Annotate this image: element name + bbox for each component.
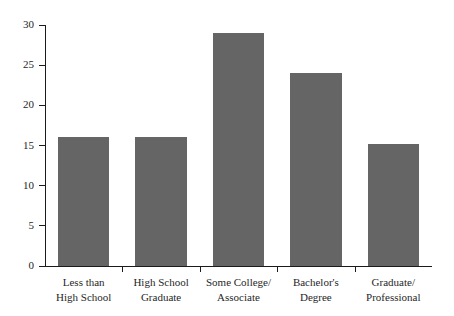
y-tick-label: 0 xyxy=(0,260,34,271)
y-tick-label: 10 xyxy=(0,180,34,191)
y-tick-mark xyxy=(39,65,45,66)
bar xyxy=(213,33,264,266)
y-tick-label: 15 xyxy=(0,140,34,151)
x-tick-mark xyxy=(355,266,356,272)
y-tick-label: 25 xyxy=(0,59,34,70)
bar-chart: 051015202530 Less thanHigh SchoolHigh Sc… xyxy=(0,0,454,316)
x-label-line: Some College/ xyxy=(206,276,271,288)
x-axis-category-label: Graduate/Professional xyxy=(355,275,432,304)
x-label-line: Graduate xyxy=(122,290,199,305)
y-tick-label: 30 xyxy=(0,19,34,30)
x-label-line: High School xyxy=(45,290,122,305)
x-axis-line xyxy=(45,266,432,267)
x-axis-category-label: Some College/Associate xyxy=(200,275,277,304)
y-tick-mark xyxy=(39,145,45,146)
y-tick-mark xyxy=(39,266,45,267)
bar xyxy=(135,137,186,266)
y-tick-mark xyxy=(39,105,45,106)
x-label-line: Professional xyxy=(355,290,432,305)
x-axis-category-label: Less thanHigh School xyxy=(45,275,122,304)
x-tick-mark xyxy=(277,266,278,272)
x-label-line: Associate xyxy=(200,290,277,305)
x-tick-mark xyxy=(200,266,201,272)
y-tick-mark xyxy=(39,185,45,186)
bar xyxy=(58,137,109,266)
y-tick-mark xyxy=(39,225,45,226)
x-label-line: Bachelor's xyxy=(293,276,339,288)
y-tick-label: 5 xyxy=(0,220,34,231)
y-tick-label: 20 xyxy=(0,99,34,110)
x-axis-category-label: Bachelor'sDegree xyxy=(277,275,354,304)
x-label-line: Graduate/ xyxy=(372,276,415,288)
x-axis-category-label: High SchoolGraduate xyxy=(122,275,199,304)
x-tick-mark xyxy=(122,266,123,272)
x-label-line: Less than xyxy=(63,276,105,288)
x-label-line: High School xyxy=(133,276,188,288)
y-tick-mark xyxy=(39,25,45,26)
bar xyxy=(368,144,419,266)
x-label-line: Degree xyxy=(277,290,354,305)
bar xyxy=(290,73,341,266)
y-axis-line xyxy=(45,25,46,266)
